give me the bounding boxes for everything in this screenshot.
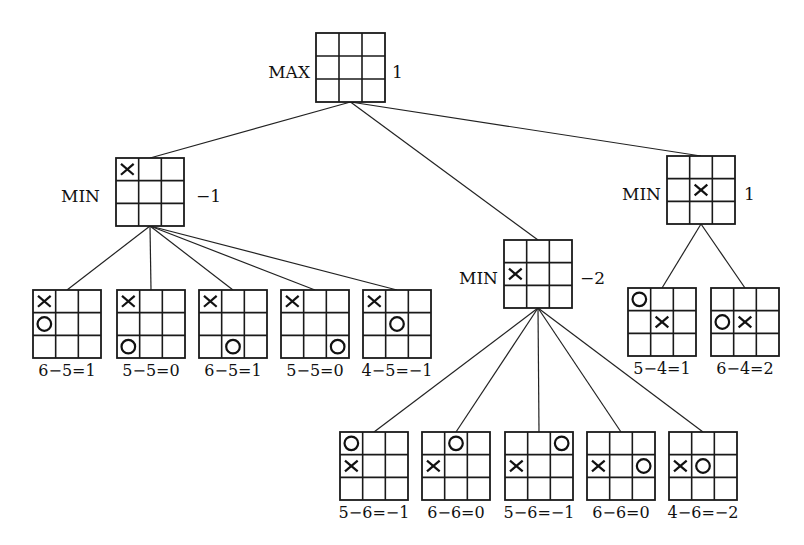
leaf-evaluation: 5−5=0 — [122, 361, 179, 380]
leaf-evaluation: 5−4=1 — [633, 359, 690, 378]
leaf-node: 6−5=1 — [199, 290, 267, 380]
tree-edge — [67, 226, 150, 290]
tree-edge — [456, 308, 538, 432]
tree-edge — [351, 102, 702, 156]
leaf-node: 4−6=−2 — [668, 432, 739, 522]
board-frame — [316, 33, 385, 102]
leaf-evaluation: 6−4=2 — [716, 359, 773, 378]
node-type-label: MIN — [459, 268, 498, 288]
leaf-evaluation: 6−5=1 — [204, 361, 261, 380]
min-node: MIN−2 — [459, 240, 605, 308]
node-minimax-value: 1 — [392, 62, 403, 82]
leaf-evaluation: 5−5=0 — [286, 361, 343, 380]
leaf-node: 6−6=0 — [422, 432, 490, 522]
leaf-evaluation: 5−6=−1 — [504, 503, 575, 522]
leaf-node: 4−5=−1 — [362, 290, 433, 380]
node-type-label: MIN — [61, 186, 100, 206]
node-minimax-value: 1 — [744, 184, 755, 204]
node-minimax-value: −1 — [196, 186, 221, 206]
tree-edge — [150, 226, 315, 290]
leaf-node: 5−6=−1 — [339, 432, 410, 522]
tree-edges — [67, 102, 745, 432]
max-node: MAX1 — [268, 33, 403, 102]
tree-edge — [662, 224, 701, 288]
leaf-evaluation: 5−6=−1 — [339, 503, 410, 522]
tree-edge — [351, 102, 539, 240]
node-type-label: MIN — [622, 184, 661, 204]
tree-edge — [538, 308, 539, 432]
tree-edge — [150, 226, 397, 290]
leaf-node: 5−6=−1 — [504, 432, 575, 522]
tree-edge — [150, 102, 351, 158]
min-node: MIN−1 — [61, 158, 221, 226]
leaf-evaluation: 4−5=−1 — [362, 361, 433, 380]
leaf-node: 5−4=1 — [628, 288, 696, 378]
leaf-node: 5−5=0 — [281, 290, 349, 380]
tree-nodes: MAX1MIN−1MIN−2MIN16−5=15−5=06−5=15−5=04−… — [33, 33, 779, 522]
leaf-evaluation: 6−6=0 — [592, 503, 649, 522]
leaf-node: 6−5=1 — [33, 290, 101, 380]
tree-edge — [150, 226, 233, 290]
leaf-evaluation: 6−6=0 — [427, 503, 484, 522]
node-minimax-value: −2 — [580, 268, 605, 288]
minimax-tree-diagram: MAX1MIN−1MIN−2MIN16−5=15−5=06−5=15−5=04−… — [0, 0, 804, 545]
node-type-label: MAX — [268, 62, 311, 82]
tree-edge — [538, 308, 621, 432]
leaf-evaluation: 4−6=−2 — [668, 503, 739, 522]
tree-edge — [701, 224, 745, 288]
tree-edge — [150, 226, 151, 290]
min-node: MIN1 — [622, 156, 755, 224]
leaf-node: 6−6=0 — [587, 432, 655, 522]
leaf-evaluation: 6−5=1 — [38, 361, 95, 380]
leaf-node: 5−5=0 — [117, 290, 185, 380]
leaf-node: 6−4=2 — [711, 288, 779, 378]
